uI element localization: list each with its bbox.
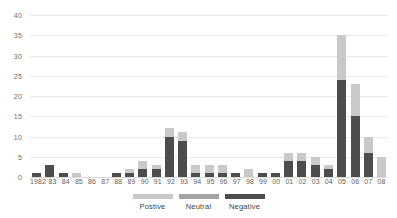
bar-stack[interactable]	[125, 169, 134, 177]
x-axis-tick-label: 86	[85, 178, 98, 190]
bar-segment-negative[interactable]	[152, 169, 161, 177]
legend-item[interactable]: Postive	[133, 194, 173, 211]
bar-stack[interactable]	[45, 165, 54, 177]
bar-segment-negative[interactable]	[112, 173, 121, 177]
bar-group[interactable]	[309, 15, 322, 177]
legend-swatch	[225, 194, 265, 199]
bar-group[interactable]	[176, 15, 189, 177]
bar-stack[interactable]	[377, 157, 386, 177]
bar-group[interactable]	[216, 15, 229, 177]
bar-segment-postive[interactable]	[337, 35, 346, 80]
x-axis-tick-label: 83	[46, 178, 59, 190]
bar-group[interactable]	[163, 15, 176, 177]
bar-segment-postive[interactable]	[178, 132, 187, 140]
bar-stack[interactable]	[271, 173, 280, 177]
bar-segment-negative[interactable]	[59, 173, 68, 177]
bar-stack[interactable]	[59, 173, 68, 177]
bar-segment-postive[interactable]	[351, 84, 360, 116]
bar-group[interactable]	[256, 15, 269, 177]
bar-segment-negative[interactable]	[32, 173, 41, 177]
legend-label: Negative	[229, 202, 260, 211]
bar-group[interactable]	[295, 15, 308, 177]
bar-stack[interactable]	[364, 137, 373, 177]
bar-segment-negative[interactable]	[337, 80, 346, 177]
bar-group[interactable]	[242, 15, 255, 177]
bar-group[interactable]	[30, 15, 43, 177]
bar-group[interactable]	[96, 15, 109, 177]
bar-segment-postive[interactable]	[165, 128, 174, 136]
bar-segment-negative[interactable]	[311, 165, 320, 177]
bar-segment-negative[interactable]	[258, 173, 267, 177]
bar-stack[interactable]	[178, 132, 187, 177]
bar-segment-negative[interactable]	[231, 173, 240, 177]
bar-stack[interactable]	[72, 173, 81, 177]
bar-group[interactable]	[322, 15, 335, 177]
bar-stack[interactable]	[191, 165, 200, 177]
bar-stack[interactable]	[244, 169, 253, 177]
bar-segment-postive[interactable]	[311, 157, 320, 165]
bar-stack[interactable]	[258, 173, 267, 177]
bar-segment-negative[interactable]	[138, 169, 147, 177]
bar-stack[interactable]	[297, 153, 306, 177]
x-axis-tick-label: 01	[283, 178, 296, 190]
x-axis-tick-label: 02	[296, 178, 309, 190]
bar-group[interactable]	[43, 15, 56, 177]
bar-group[interactable]	[110, 15, 123, 177]
bar-segment-negative[interactable]	[218, 173, 227, 177]
bar-segment-postive[interactable]	[205, 165, 214, 173]
bar-stack[interactable]	[324, 165, 333, 177]
bar-group[interactable]	[269, 15, 282, 177]
bar-segment-postive[interactable]	[364, 137, 373, 153]
bar-group[interactable]	[149, 15, 162, 177]
bar-group[interactable]	[375, 15, 388, 177]
bar-group[interactable]	[70, 15, 83, 177]
bar-stack[interactable]	[112, 173, 121, 177]
bar-stack[interactable]	[231, 173, 240, 177]
legend-item[interactable]: Negative	[225, 194, 265, 211]
bar-stack[interactable]	[138, 161, 147, 177]
bar-segment-postive[interactable]	[218, 165, 227, 173]
bar-stack[interactable]	[32, 173, 41, 177]
bar-segment-negative[interactable]	[205, 173, 214, 177]
bar-segment-postive[interactable]	[377, 157, 386, 177]
bar-stack[interactable]	[205, 165, 214, 177]
bar-segment-negative[interactable]	[284, 161, 293, 177]
bar-segment-negative[interactable]	[324, 169, 333, 177]
bar-segment-negative[interactable]	[351, 116, 360, 177]
bar-segment-negative[interactable]	[271, 173, 280, 177]
bar-segment-negative[interactable]	[165, 137, 174, 178]
bar-stack[interactable]	[284, 153, 293, 177]
bar-segment-postive[interactable]	[297, 153, 306, 161]
bar-segment-postive[interactable]	[284, 153, 293, 161]
bar-segment-negative[interactable]	[297, 161, 306, 177]
bar-group[interactable]	[335, 15, 348, 177]
bar-group[interactable]	[123, 15, 136, 177]
bar-stack[interactable]	[218, 165, 227, 177]
bar-segment-negative[interactable]	[364, 153, 373, 177]
bar-segment-negative[interactable]	[45, 165, 54, 177]
bar-segment-negative[interactable]	[191, 173, 200, 177]
bar-group[interactable]	[57, 15, 70, 177]
bar-stack[interactable]	[152, 165, 161, 177]
bar-group[interactable]	[202, 15, 215, 177]
bar-segment-negative[interactable]	[178, 141, 187, 177]
bar-stack[interactable]	[311, 157, 320, 177]
bar-stack[interactable]	[337, 35, 346, 177]
y-axis-tick-label: 0	[18, 174, 22, 181]
bar-group[interactable]	[189, 15, 202, 177]
bar-segment-postive[interactable]	[244, 169, 253, 177]
bar-group[interactable]	[282, 15, 295, 177]
bar-stack[interactable]	[165, 128, 174, 177]
bar-segment-postive[interactable]	[191, 165, 200, 173]
bar-group[interactable]	[348, 15, 361, 177]
bar-segment-postive[interactable]	[138, 161, 147, 169]
x-axis-tick-label: 00	[270, 178, 283, 190]
bar-group[interactable]	[362, 15, 375, 177]
bar-group[interactable]	[83, 15, 96, 177]
legend-item[interactable]: Neutral	[179, 194, 219, 211]
bar-segment-negative[interactable]	[125, 173, 134, 177]
bar-segment-postive[interactable]	[72, 173, 81, 177]
bar-group[interactable]	[229, 15, 242, 177]
bar-group[interactable]	[136, 15, 149, 177]
bar-stack[interactable]	[351, 84, 360, 177]
